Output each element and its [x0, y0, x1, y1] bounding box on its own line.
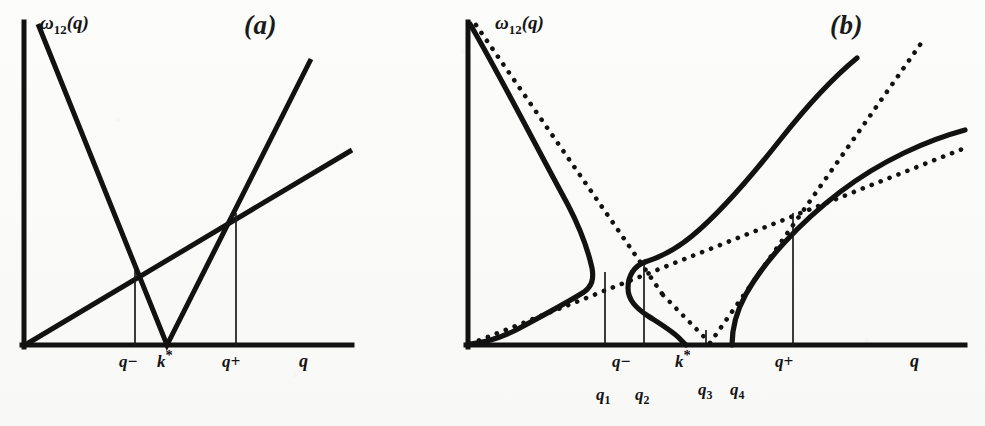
- panel-a-tick-q-plus: q+: [222, 352, 240, 372]
- panel-a-x-axis-name: q: [299, 351, 308, 372]
- panel-b-tick-q4-subscript: 4: [739, 388, 745, 402]
- figure-root: ω12(q) (a) q− k* q+ q: [0, 0, 985, 426]
- panel-b-tick-q1-subscript: 1: [605, 393, 611, 407]
- panel-b-tick-q3-letter: q: [698, 380, 707, 399]
- panel-b-tick-q2: q2: [635, 385, 649, 408]
- panel-b-tick-q1: q1: [596, 385, 610, 408]
- panel-b-plot: [420, 0, 985, 426]
- panel-b-x-axis-name: q: [910, 351, 919, 372]
- panel-a: ω12(q) (a) q− k* q+ q: [0, 0, 420, 426]
- panel-a-shallow-branch: [25, 150, 352, 345]
- panel-b-solid-left-branch: [470, 24, 593, 344]
- panel-b-solid-lower-right-branch: [732, 130, 965, 345]
- panel-a-v-branch: [38, 24, 311, 345]
- panel-b-tick-q3: q3: [698, 380, 712, 403]
- panel-b: ω12(q) (b) q− k* q+ q q1 q2 q3 q4: [420, 0, 985, 426]
- panel-b-tick-k-star: k*: [675, 352, 691, 372]
- panel-b-y-axis-title: ω12(q): [495, 12, 544, 38]
- panel-b-label: (b): [830, 10, 863, 41]
- panel-b-tick-q2-letter: q: [635, 385, 644, 404]
- panel-a-tick-k-star-glyph: *: [166, 347, 173, 363]
- panel-b-tick-q-plus: q+: [775, 352, 793, 372]
- panel-b-tick-q4: q4: [730, 380, 744, 403]
- panel-a-omega-symbol: ω: [40, 12, 54, 33]
- panel-b-dotted-descending-tail: [663, 295, 710, 343]
- panel-a-tick-k-star: k*: [157, 352, 173, 372]
- panel-b-omega-subscript: 12: [509, 22, 522, 37]
- panel-b-tick-k-letter: k: [675, 352, 684, 371]
- panel-b-tick-k-star-glyph: *: [684, 347, 691, 363]
- panel-a-plot: [0, 0, 420, 426]
- panel-b-omega-symbol: ω: [495, 12, 509, 33]
- panel-b-tick-q2-subscript: 2: [644, 393, 650, 407]
- panel-a-tick-k-letter: k: [157, 352, 166, 371]
- panel-b-solid-middle-s-branch: [628, 262, 686, 345]
- panel-b-dotted-descending: [476, 25, 663, 295]
- panel-a-label: (a): [244, 10, 277, 41]
- panel-a-y-axis-title: ω12(q): [40, 12, 89, 38]
- panel-b-solid-upper-right-branch: [645, 58, 857, 262]
- panel-a-omega-subscript: 12: [54, 22, 67, 37]
- panel-b-tick-q3-subscript: 3: [707, 388, 713, 402]
- panel-b-tick-q1-letter: q: [596, 385, 605, 404]
- panel-a-tick-q-minus: q−: [119, 352, 138, 372]
- panel-b-tick-q-minus: q−: [612, 352, 631, 372]
- panel-b-tick-q4-letter: q: [730, 380, 739, 399]
- panel-a-omega-argument: (q): [67, 12, 89, 33]
- panel-b-omega-argument: (q): [522, 12, 544, 33]
